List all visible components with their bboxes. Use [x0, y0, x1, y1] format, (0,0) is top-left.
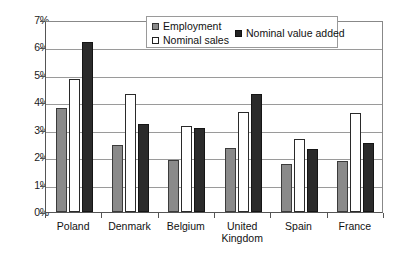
- x-axis-category-label: France: [327, 220, 383, 232]
- x-axis-tick-mark: [327, 213, 328, 218]
- bar: [69, 79, 80, 212]
- x-axis-tick-mark: [101, 213, 102, 218]
- bar: [350, 113, 361, 212]
- x-axis-tick-mark: [214, 213, 215, 218]
- legend-entry-nominal-sales: Nominal sales: [152, 34, 229, 46]
- x-axis-tick-mark: [158, 213, 159, 218]
- x-axis-category-label: Poland: [45, 220, 101, 232]
- x-axis-category-label: Belgium: [158, 220, 214, 232]
- legend-swatch-nominal-sales: [152, 37, 159, 44]
- plot-area: [45, 21, 383, 213]
- y-axis-tick-label: 2%: [9, 151, 49, 163]
- bar: [168, 160, 179, 212]
- bar-group: [271, 22, 327, 212]
- bar: [181, 126, 192, 212]
- bar: [56, 108, 67, 212]
- bar: [138, 124, 149, 212]
- legend-swatch-nominal-value-added: [235, 30, 242, 37]
- y-axis-tick-label: 5%: [9, 69, 49, 81]
- bar: [251, 94, 262, 212]
- y-axis-tick-label: 3%: [9, 124, 49, 136]
- bar: [82, 42, 93, 212]
- x-axis-category-label: Denmark: [101, 220, 157, 232]
- legend-label-nominal-sales: Nominal sales: [163, 34, 229, 46]
- bar-chart: 0%1%2%3%4%5%6%7% PolandDenmarkBelgiumUni…: [0, 0, 398, 265]
- bar: [294, 139, 305, 212]
- legend-entry-employment: Employment: [152, 20, 221, 32]
- bar: [238, 112, 249, 212]
- legend-swatch-employment: [152, 23, 159, 30]
- x-axis-tick-mark: [45, 213, 46, 218]
- y-axis-tick-label: 4%: [9, 96, 49, 108]
- x-axis-tick-mark: [383, 213, 384, 218]
- bar: [307, 149, 318, 212]
- y-axis-tick-label: 0%: [9, 206, 49, 218]
- y-axis-tick-label: 7%: [9, 14, 49, 26]
- bar-group: [215, 22, 271, 212]
- legend-entry-nominal-value-added: Nominal value added: [235, 27, 345, 39]
- chart-legend: Employment Nominal sales Nominal value a…: [146, 16, 338, 48]
- bar-group: [46, 22, 102, 212]
- bar: [281, 164, 292, 212]
- bar-group: [328, 22, 384, 212]
- x-axis-category-label: United Kingdom: [214, 220, 270, 244]
- x-axis-category-label: Spain: [270, 220, 326, 232]
- bar: [363, 143, 374, 212]
- bar: [225, 148, 236, 212]
- legend-label-employment: Employment: [163, 20, 221, 32]
- bar: [125, 94, 136, 212]
- bar-group: [102, 22, 158, 212]
- x-axis-tick-mark: [270, 213, 271, 218]
- y-axis-tick-label: 6%: [9, 41, 49, 53]
- bar: [112, 145, 123, 212]
- bar: [194, 128, 205, 212]
- legend-label-nominal-value-added: Nominal value added: [246, 27, 345, 39]
- bar: [337, 161, 348, 212]
- bar-group: [159, 22, 215, 212]
- y-axis-tick-label: 1%: [9, 179, 49, 191]
